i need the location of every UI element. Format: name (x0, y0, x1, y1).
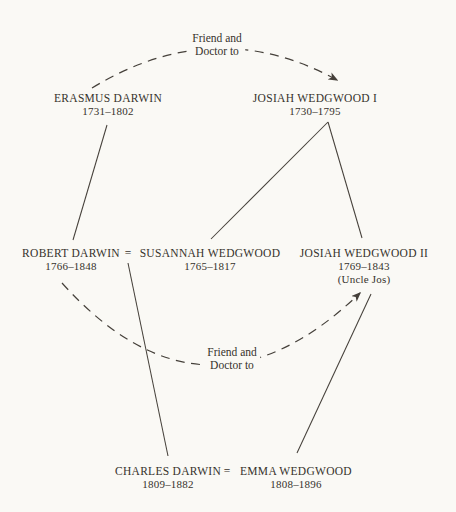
marriage-sign-robert-susannah: = (125, 247, 132, 260)
annotation-friend-doctor-top: Friend and Doctor to (189, 32, 245, 57)
annotation-line1: Friend and (192, 32, 242, 45)
person-susannah-wedgwood: SUSANNAH WEDGWOOD 1765–1817 (140, 247, 281, 273)
marriage-sign-charles-emma: = (224, 465, 231, 478)
person-name: CHARLES DARWIN (115, 465, 221, 478)
person-dates: 1766–1848 (22, 260, 120, 273)
person-dates: 1809–1882 (115, 478, 221, 491)
annotation-line2: Doctor to (192, 45, 242, 58)
person-name: JOSIAH WEDGWOOD II (300, 247, 428, 260)
person-dates: 1730–1795 (253, 105, 377, 118)
line-robert-susannah-to-charles (128, 263, 168, 456)
family-tree-diagram: Friend and Doctor to Friend and Doctor t… (0, 0, 456, 512)
person-name: JOSIAH WEDGWOOD I (253, 92, 377, 105)
person-dates: 1769–1843 (300, 260, 428, 273)
line-josiah1-to-josiah2 (328, 122, 362, 238)
line-erasmus-to-robert (73, 125, 107, 240)
person-emma-wedgwood: EMMA WEDGWOOD 1808–1896 (240, 465, 352, 491)
person-name: ERASMUS DARWIN (54, 92, 162, 105)
person-josiah-wedgwood-ii: JOSIAH WEDGWOOD II 1769–1843 (Uncle Jos) (300, 247, 428, 286)
line-josiah2-to-emma (297, 294, 371, 453)
person-name: ROBERT DARWIN (22, 247, 120, 260)
person-charles-darwin: CHARLES DARWIN 1809–1882 (115, 465, 221, 491)
annotation-line1: Friend and (207, 346, 257, 359)
person-josiah-wedgwood-i: JOSIAH WEDGWOOD I 1730–1795 (253, 92, 377, 118)
person-erasmus-darwin: ERASMUS DARWIN 1731–1802 (54, 92, 162, 118)
person-name: SUSANNAH WEDGWOOD (140, 247, 281, 260)
line-josiah1-to-susannah (211, 122, 328, 239)
annotation-friend-doctor-bottom: Friend and Doctor to (204, 346, 260, 371)
person-dates: 1765–1817 (140, 260, 281, 273)
person-robert-darwin: ROBERT DARWIN 1766–1848 (22, 247, 120, 273)
person-name: EMMA WEDGWOOD (240, 465, 352, 478)
person-dates: 1808–1896 (240, 478, 352, 491)
person-note: (Uncle Jos) (300, 273, 428, 286)
annotation-line2: Doctor to (207, 359, 257, 372)
person-dates: 1731–1802 (54, 105, 162, 118)
